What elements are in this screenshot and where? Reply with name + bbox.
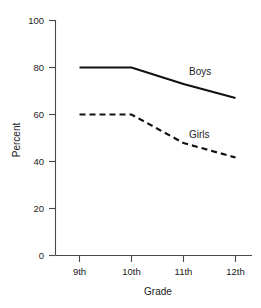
x-axis-title: Grade <box>144 286 172 297</box>
series-label-girls: Girls <box>189 129 210 140</box>
y-tick-label-80: 80 <box>33 62 44 73</box>
y-tick-label-100: 100 <box>28 15 44 26</box>
line-chart: 100 80 60 40 20 0 9th 10th 11th 12th Gra… <box>0 0 261 308</box>
y-tick-label-60: 60 <box>33 109 44 120</box>
series-label-boys: Boys <box>189 66 211 77</box>
x-tick-label-10th: 10th <box>122 266 141 277</box>
y-tick-label-20: 20 <box>33 203 44 214</box>
y-tick-label-40: 40 <box>33 156 44 167</box>
y-axis-title: Percent <box>11 123 22 158</box>
x-tick-label-12th: 12th <box>226 266 245 277</box>
chart-canvas: 100 80 60 40 20 0 9th 10th 11th 12th Gra… <box>0 0 261 308</box>
series-line-girls <box>80 115 236 158</box>
series-line-boys <box>80 68 236 99</box>
y-tick-label-0: 0 <box>39 250 44 261</box>
x-tick-label-9th: 9th <box>73 266 86 277</box>
x-tick-label-11th: 11th <box>175 266 193 277</box>
